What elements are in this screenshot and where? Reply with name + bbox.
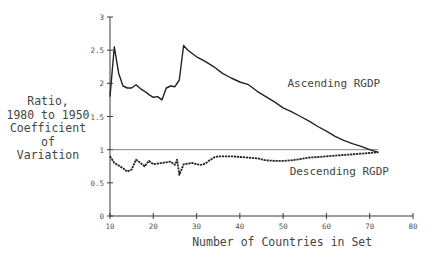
y-axis-label: Ratio, 1980 to 1950 Coefficient of Varia… xyxy=(2,95,94,163)
series-group xyxy=(110,46,378,175)
y-label-line-5: Variation xyxy=(2,149,94,163)
y-label-line-2: 1980 to 1950 xyxy=(2,109,94,123)
x-tick-label: 70 xyxy=(365,222,375,231)
y-tick-label: 2 xyxy=(99,79,104,88)
y-tick-label: 3 xyxy=(99,13,104,22)
y-label-line-1: Ratio, xyxy=(2,95,94,109)
x-tick-label: 40 xyxy=(235,222,245,231)
y-tick-label: 0 xyxy=(99,212,104,221)
x-tick-label: 80 xyxy=(408,222,418,231)
x-tick-label: 60 xyxy=(322,222,332,231)
x-tick-label: 20 xyxy=(149,222,159,231)
labels-group: Ascending RGDPDescending RGDP xyxy=(287,77,389,178)
series-label-ascending-rgdp: Ascending RGDP xyxy=(287,77,380,90)
x-tick-label: 30 xyxy=(192,222,202,231)
x-axis-label: Number of Countries in Set xyxy=(192,235,372,249)
x-tick-label: 50 xyxy=(279,222,289,231)
series-ascending-rgdp xyxy=(110,46,378,153)
y-tick-label: 2.5 xyxy=(90,46,104,55)
y-tick-label: 0.5 xyxy=(90,179,104,188)
y-label-line-3: Coefficient xyxy=(2,122,94,136)
series-label-descending-rgdp: Descending RGDP xyxy=(290,165,390,178)
axes: 00.511.522.531020304050607080Number of C… xyxy=(90,13,418,249)
y-label-line-4: of xyxy=(2,136,94,150)
x-tick-label: 10 xyxy=(105,222,115,231)
y-tick-label: 1 xyxy=(99,146,104,155)
